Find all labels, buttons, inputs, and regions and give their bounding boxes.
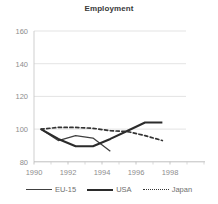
ytick-label: 160 xyxy=(15,27,28,36)
xtick-label: 1994 xyxy=(94,168,111,177)
chart-legend: EU-15 USA Japan xyxy=(0,185,218,194)
data-series-layer xyxy=(41,123,162,152)
x-axis-tick-labels: 1990 1992 1994 1996 1998 xyxy=(26,168,179,177)
legend-label: Japan xyxy=(172,185,192,194)
ytick-label: 120 xyxy=(15,92,28,101)
xtick-label: 1990 xyxy=(26,168,43,177)
gridlines xyxy=(34,31,186,129)
xtick-label: 1996 xyxy=(128,168,145,177)
solid-thick-line-swatch-icon xyxy=(87,189,113,191)
legend-item-japan[interactable]: Japan xyxy=(143,185,192,194)
dotted-line-swatch-icon xyxy=(143,189,169,190)
legend-label: USA xyxy=(116,185,131,194)
series-line-eu-15 xyxy=(41,129,110,151)
plot-area: 160 140 120 100 80 1990 1992 1994 1996 1… xyxy=(0,0,218,180)
legend-label: EU-15 xyxy=(55,185,76,194)
solid-line-swatch-icon xyxy=(26,189,52,190)
y-axis-tick-labels: 160 140 120 100 80 xyxy=(15,27,28,167)
xtick-label: 1992 xyxy=(60,168,77,177)
ytick-label: 80 xyxy=(20,158,28,167)
employment-chart: Employment 160 140 120 100 xyxy=(0,0,218,204)
legend-item-eu-15[interactable]: EU-15 xyxy=(26,185,76,194)
series-line-usa xyxy=(41,123,162,147)
ytick-label: 140 xyxy=(15,60,28,69)
legend-item-usa[interactable]: USA xyxy=(87,185,131,194)
ytick-label: 100 xyxy=(15,125,28,134)
xtick-label: 1998 xyxy=(162,168,179,177)
